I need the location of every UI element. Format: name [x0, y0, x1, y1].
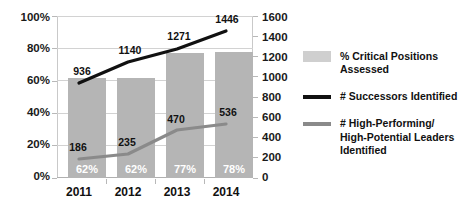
point-label-successors-2011: 936: [73, 66, 91, 77]
x-axis-tickmark: [204, 179, 205, 184]
point-label-hipo-2013: 470: [167, 114, 185, 125]
legend-swatch-line-black-icon: [303, 95, 331, 99]
legend-item-high-potential[interactable]: # High-Performing/ High-Potential Leader…: [303, 117, 471, 156]
right-axis-tick-1400: 1400: [262, 32, 288, 44]
legend-item-critical-positions[interactable]: % Critical Positions Assessed: [303, 50, 471, 76]
point-label-successors-2012: 1140: [119, 45, 142, 56]
point-label-successors-2014: 1446: [215, 14, 238, 25]
point-label-hipo-2011: 186: [69, 142, 87, 153]
legend-label-critical-positions: % Critical Positions Assessed: [340, 50, 471, 76]
left-axis-tick-20: 20%: [27, 139, 50, 151]
chart-legend: % Critical Positions Assessed # Successo…: [303, 50, 471, 171]
right-axis-tick-600: 600: [262, 112, 281, 124]
right-axis-tickmark: [253, 137, 258, 138]
x-axis-tickmark: [155, 179, 156, 184]
x-axis-label-2011: 2011: [58, 186, 100, 198]
plot-left-border: [57, 16, 58, 178]
left-axis-tick-0: 0%: [33, 171, 50, 183]
left-axis-tickmark: [52, 178, 57, 179]
right-axis-tickmark: [253, 16, 258, 17]
right-axis-tickmark: [253, 76, 258, 77]
right-axis-tickmark: [253, 56, 258, 57]
left-axis-tick-60: 60%: [27, 75, 50, 87]
right-axis-tickmark: [253, 36, 258, 37]
right-axis-tick-0: 0: [262, 172, 268, 184]
bar-2012[interactable]: 62%: [117, 78, 155, 178]
legend-label-high-potential-line2: High-Potential Leaders Identified: [340, 131, 471, 157]
bar-label-2013: 77%: [166, 164, 204, 175]
bar-2011[interactable]: 62%: [68, 78, 106, 178]
legend-swatch-line-gray-icon: [303, 122, 331, 126]
right-axis-tick-200: 200: [262, 152, 281, 164]
right-axis-tickmark: [253, 117, 258, 118]
x-axis-label-2014: 2014: [205, 186, 247, 198]
point-label-hipo-2014: 536: [219, 107, 237, 118]
x-axis-label-2012: 2012: [107, 186, 149, 198]
legend-label-successors: # Successors Identified: [340, 90, 457, 103]
chart-container: 100% 80% 60% 40% 20% 0% 1600 1400 1200 1…: [0, 0, 471, 207]
right-axis-tickmark: [253, 97, 258, 98]
right-axis-tick-1600: 1600: [262, 12, 288, 24]
legend-item-successors[interactable]: # Successors Identified: [303, 90, 471, 103]
left-axis-tick-40: 40%: [27, 107, 50, 119]
right-axis-tick-1000: 1000: [262, 72, 288, 84]
point-label-hipo-2012: 235: [118, 137, 136, 148]
x-axis-label-2013: 2013: [156, 186, 198, 198]
right-axis-tickmark: [253, 157, 258, 158]
right-axis-tick-800: 800: [262, 92, 281, 104]
plot-area: 62% 62% 77% 78%: [57, 16, 253, 178]
x-axis-tickmark: [106, 179, 107, 184]
right-axis-tickmark: [253, 178, 258, 179]
legend-swatch-bar-icon: [303, 51, 331, 62]
gridline: [57, 48, 253, 49]
bar-label-2012: 62%: [117, 164, 155, 175]
right-axis-tick-400: 400: [262, 132, 281, 144]
point-label-successors-2013: 1271: [167, 31, 190, 42]
legend-label-high-potential-line1: # High-Performing/: [340, 117, 471, 130]
bar-label-2014: 78%: [215, 164, 253, 175]
left-axis-tick-100: 100%: [21, 12, 50, 24]
bar-label-2011: 62%: [68, 164, 106, 175]
left-axis-tick-80: 80%: [27, 43, 50, 55]
right-axis-tick-1200: 1200: [262, 52, 288, 64]
